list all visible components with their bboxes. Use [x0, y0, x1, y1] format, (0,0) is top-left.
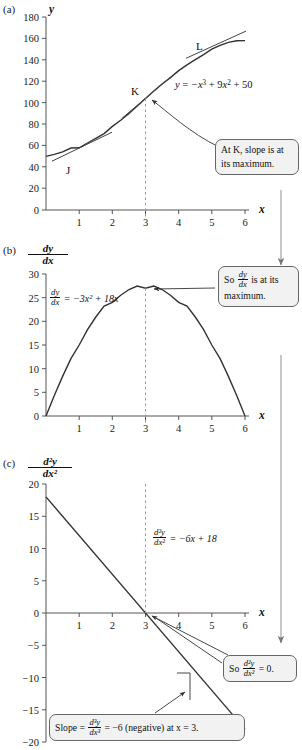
svg-text:2: 2 [110, 423, 115, 434]
panel-tag-c: (c) [3, 457, 15, 469]
callout-c-slope-frac: d³y dx³ [88, 718, 101, 737]
panel-b-yaxis-label: dy dx [28, 243, 68, 266]
panel-c-yaxis-den: dx² [28, 468, 72, 479]
callout-at-k-slope-max: At K, slope is at its maximum. [215, 139, 299, 175]
svg-text:60: 60 [29, 140, 40, 151]
panel-b-yaxis-den: dx [28, 255, 68, 266]
callout-c-zero-line: So d²y dx² = 0. [229, 659, 291, 678]
callout-b-frac-den: dx [238, 280, 248, 289]
svg-text:0: 0 [34, 608, 39, 619]
svg-text:−15: −15 [23, 705, 39, 716]
svg-text:4: 4 [176, 423, 182, 434]
panel-c-eq-rhs: = −6x + 18 [169, 533, 216, 544]
svg-text:−10: −10 [23, 673, 39, 684]
callout-b-frac: dy dx [238, 270, 248, 289]
panel-b-eq-den: dx [50, 298, 60, 307]
figure-svg: 180 160 140 120 100 80 60 40 20 0 1 2 3 … [0, 0, 302, 750]
svg-text:−20: −20 [23, 737, 39, 748]
arrow-callout-b-to-peak [154, 288, 215, 289]
tangent-at-k [122, 78, 170, 119]
callout-third-derivative-slope: Slope = d³y dx³ = −6 (negative) at x = 3… [49, 714, 245, 741]
panel-b-xaxis-label: x [258, 409, 265, 421]
panel-a-ticklabels: 180 160 140 120 100 80 60 40 20 0 1 2 3 … [23, 12, 247, 228]
svg-text:1: 1 [77, 217, 82, 228]
svg-text:6: 6 [242, 620, 247, 631]
callout-c-zero-prefix: So [229, 663, 239, 674]
panel-a-yaxis-label: y [47, 3, 55, 16]
svg-text:10: 10 [29, 364, 40, 375]
svg-text:5: 5 [209, 217, 214, 228]
svg-text:−5: −5 [28, 640, 39, 651]
panel-b-eq-rhs: = −3x² + 18x [64, 293, 119, 304]
callout-d2ydx2-zero: So d²y dx² = 0. [223, 655, 297, 682]
svg-text:5: 5 [34, 576, 39, 587]
svg-text:5: 5 [34, 387, 39, 398]
callout-c-slope-suffix: = −6 (negative) at x = 3. [104, 722, 198, 733]
svg-text:5: 5 [209, 620, 214, 631]
callout-b-line1: So dy dx is at its [224, 270, 293, 289]
svg-text:25: 25 [29, 293, 40, 304]
callout-dydx-max: So dy dx is at its maximum. [218, 266, 299, 307]
svg-text:140: 140 [23, 55, 39, 66]
callout-a-line1: At K, slope is at [221, 143, 293, 157]
svg-text:1: 1 [77, 620, 82, 631]
svg-text:15: 15 [29, 511, 40, 522]
callout-c-zero-suffix: = 0. [259, 663, 274, 674]
panel-c-equation: d²y dx² = −6x + 18 [152, 528, 217, 547]
svg-text:40: 40 [29, 162, 40, 173]
arrow-callout-a-to-k [152, 100, 219, 147]
panel-c-eq-frac: d²y dx² [153, 528, 166, 547]
panel-c-xaxis-label: x [258, 606, 265, 618]
svg-text:100: 100 [23, 98, 39, 109]
callout-a-line2: its maximum. [221, 157, 293, 171]
svg-text:0: 0 [34, 205, 39, 216]
point-label-l: L [196, 40, 203, 52]
svg-text:4: 4 [176, 620, 182, 631]
panel-tag-b: (b) [3, 244, 16, 256]
svg-text:180: 180 [23, 12, 39, 23]
panel-c-eq-den: dx² [153, 538, 166, 547]
panel-a-xaxis-label: x [258, 203, 265, 215]
svg-text:30: 30 [29, 269, 40, 280]
panel-tag-a: (a) [3, 3, 15, 15]
svg-text:2: 2 [110, 620, 115, 631]
svg-text:120: 120 [23, 76, 39, 87]
point-label-k: K [131, 85, 139, 97]
callout-b-suffix: is at its [251, 274, 278, 285]
svg-text:2: 2 [110, 217, 115, 228]
svg-text:20: 20 [29, 316, 40, 327]
callout-b-line2: maximum. [224, 289, 293, 303]
svg-text:160: 160 [23, 33, 39, 44]
arrow-callout-c-zero-to-root [152, 616, 228, 655]
callout-c-slope-frac-den: dx³ [88, 728, 101, 737]
panel-a-equation: y = −x3 + 9x2 + 50 [174, 79, 253, 90]
svg-text:80: 80 [29, 119, 40, 130]
callout-c-zero-frac-den: dx² [243, 669, 256, 678]
svg-text:4: 4 [176, 217, 182, 228]
tangent-at-l [186, 31, 246, 58]
callout-c-slope-line: Slope = d³y dx³ = −6 (negative) at x = 3… [55, 718, 239, 737]
panel-b-equation: dy dx = −3x² + 18x [49, 288, 118, 307]
arrow-slope-callout [155, 692, 185, 713]
svg-text:5: 5 [209, 423, 214, 434]
svg-text:3: 3 [143, 217, 148, 228]
svg-text:1: 1 [77, 423, 82, 434]
panel-c-yaxis-label: d²y dx² [28, 456, 72, 479]
svg-text:20: 20 [29, 479, 40, 490]
callout-c-zero-frac: d²y dx² [243, 659, 256, 678]
figure-derivatives: 180 160 140 120 100 80 60 40 20 0 1 2 3 … [0, 0, 302, 750]
svg-text:15: 15 [29, 340, 40, 351]
svg-text:6: 6 [242, 423, 247, 434]
svg-text:20: 20 [29, 183, 40, 194]
panel-b-eq-frac: dy dx [50, 288, 60, 307]
point-label-j: J [66, 164, 71, 176]
svg-text:3: 3 [143, 423, 148, 434]
svg-text:3: 3 [143, 620, 148, 631]
callout-c-slope-prefix: Slope = [55, 722, 85, 733]
tangent-at-j [52, 132, 112, 161]
svg-text:10: 10 [29, 544, 40, 555]
svg-text:6: 6 [242, 217, 247, 228]
callout-b-prefix: So [224, 274, 234, 285]
svg-text:0: 0 [34, 411, 39, 422]
